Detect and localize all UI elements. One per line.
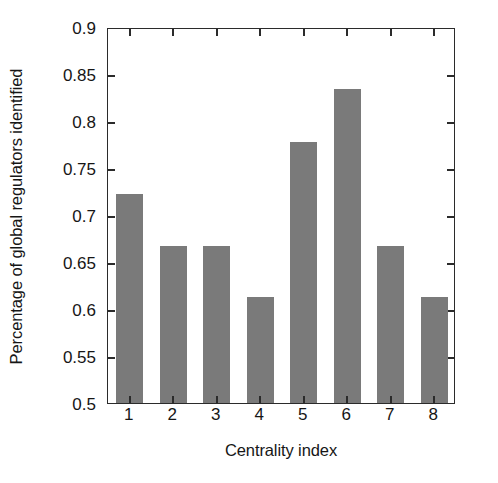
y-tick-mark [108,75,115,77]
x-tick-mark [303,396,305,403]
bar [377,246,404,403]
y-tick-mark-right [447,357,454,359]
bar-chart-figure: Percentage of global regulators identifi… [0,0,498,483]
y-tick-mark [108,169,115,171]
x-axis-tick-labels: 12345678 [107,406,455,436]
y-tick-mark [108,310,115,312]
y-tick-label: 0.85 [63,67,96,84]
y-tick-label: 0.55 [63,349,96,366]
x-tick-mark-top [433,29,435,36]
y-tick-mark-right [447,310,454,312]
x-tick-label: 8 [429,406,438,423]
y-axis-title: Percentage of global regulators identifi… [0,28,34,404]
x-tick-mark [390,396,392,403]
y-tick-mark-right [447,169,454,171]
y-axis-tick-labels: 0.50.550.60.650.70.750.80.850.9 [30,28,102,404]
y-axis-title-text: Percentage of global regulators identifi… [8,68,27,364]
bar [334,89,361,403]
y-tick-mark [108,357,115,359]
x-tick-label: 5 [298,406,307,423]
x-tick-label: 4 [255,406,264,423]
x-tick-label: 7 [385,406,394,423]
y-tick-mark-right [447,122,454,124]
bar [247,297,274,403]
y-tick-label: 0.8 [72,114,96,131]
y-tick-mark [108,122,115,124]
x-tick-label: 6 [342,406,351,423]
y-tick-mark [108,216,115,218]
y-tick-mark-right [447,75,454,77]
y-tick-label: 0.6 [72,302,96,319]
x-tick-mark [259,396,261,403]
x-tick-mark [433,396,435,403]
y-tick-label: 0.65 [63,255,96,272]
bar [203,246,230,403]
y-tick-mark-right [447,216,454,218]
y-tick-mark [108,263,115,265]
x-tick-mark [172,396,174,403]
x-tick-mark-top [390,29,392,36]
bar [290,142,317,403]
x-tick-mark [216,396,218,403]
x-tick-label: 2 [168,406,177,423]
x-tick-label: 1 [124,406,133,423]
y-tick-label: 0.9 [72,20,96,37]
y-tick-label: 0.7 [72,208,96,225]
x-tick-label: 3 [211,406,220,423]
x-tick-mark [346,396,348,403]
y-tick-mark-right [447,263,454,265]
x-tick-mark-top [172,29,174,36]
bar [116,194,143,403]
y-tick-label: 0.75 [63,161,96,178]
plot-inner [108,29,454,403]
x-tick-mark-top [259,29,261,36]
y-tick-label: 0.5 [72,396,96,413]
plot-area [107,28,455,404]
x-tick-mark-top [303,29,305,36]
x-axis-title: Centrality index [107,441,455,460]
x-tick-mark-top [129,29,131,36]
bar [421,297,448,403]
bar [160,246,187,403]
x-tick-mark-top [346,29,348,36]
x-tick-mark [129,396,131,403]
x-tick-mark-top [216,29,218,36]
